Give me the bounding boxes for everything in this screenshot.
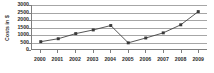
data-point-marker xyxy=(39,40,42,43)
data-series-costs xyxy=(32,5,207,49)
line-chart: Costs in $ 050010001500200025003000 2000… xyxy=(0,0,214,73)
x-axis-tick-labels: 2000200120022003200420052006200720082009 xyxy=(31,53,207,73)
data-point-marker xyxy=(92,28,95,31)
data-point-marker xyxy=(57,37,60,40)
data-point-marker xyxy=(197,10,200,13)
x-axis-tick-label: 2004 xyxy=(104,57,116,62)
x-axis-tick-label: 2003 xyxy=(87,57,99,62)
y-axis-title-label: Costs in $ xyxy=(4,15,10,41)
x-axis-tick-label: 2007 xyxy=(157,57,169,62)
series-line xyxy=(41,12,199,43)
data-point-marker xyxy=(109,24,112,27)
x-axis-tick-label: 2005 xyxy=(122,57,134,62)
x-axis-tick-label: 2006 xyxy=(140,57,152,62)
x-axis-tick-label: 2008 xyxy=(175,57,187,62)
x-axis-tick-label: 2002 xyxy=(69,57,81,62)
data-point-marker xyxy=(127,41,130,44)
plot-area xyxy=(31,5,207,50)
data-point-marker xyxy=(144,37,147,40)
data-point-marker xyxy=(179,23,182,26)
x-axis-tick-label: 2000 xyxy=(34,57,46,62)
x-axis-tick-label: 2001 xyxy=(52,57,64,62)
x-axis-tick-label: 2009 xyxy=(192,57,204,62)
data-point-marker xyxy=(162,31,165,34)
data-point-marker xyxy=(74,32,77,35)
